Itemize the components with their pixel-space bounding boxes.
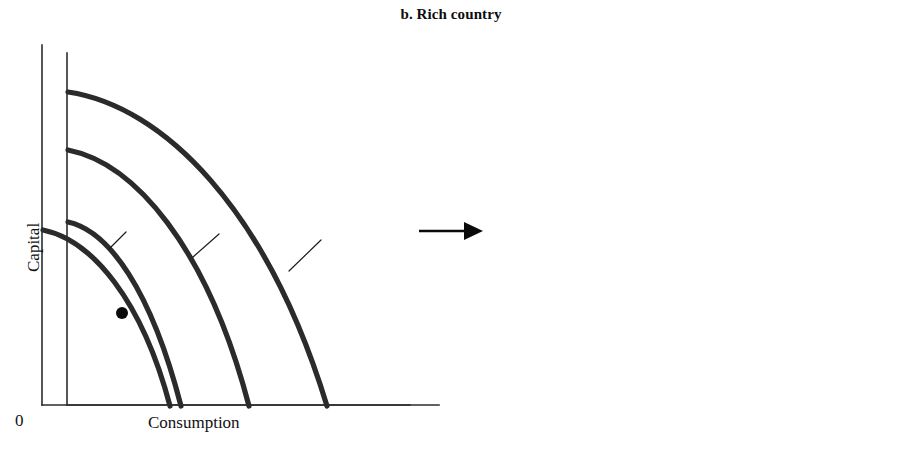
frontier-curve-1995: [68, 150, 249, 406]
right-panel-graphics: [0, 0, 451, 449]
leader-line-1990: [109, 232, 126, 249]
leader-line-2010: [289, 240, 321, 271]
figure-canvas: b. Rich country Capital Consumption 0: [0, 0, 902, 449]
leader-line-1995: [193, 234, 219, 257]
frontier-curve-1990: [68, 222, 181, 406]
chart-panel-right: Capital Consumption 0 1990 1995 2010: [451, 0, 902, 449]
